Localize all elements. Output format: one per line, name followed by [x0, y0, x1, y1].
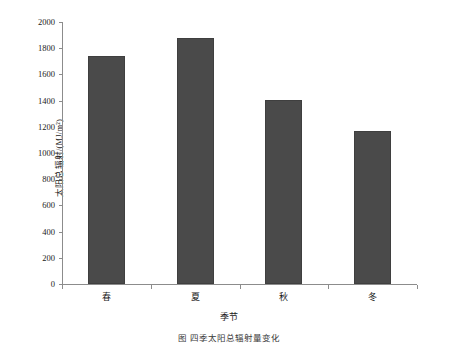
x-tick-mark — [417, 285, 418, 289]
y-tick-label: 2000 — [21, 18, 55, 27]
y-tick-mark — [59, 205, 63, 206]
y-tick-label: 1400 — [21, 97, 55, 106]
y-tick-mark — [59, 22, 63, 23]
x-tick-mark — [62, 285, 63, 289]
bar-2 — [177, 38, 214, 284]
y-tick-mark — [59, 258, 63, 259]
plot-area — [62, 22, 417, 285]
x-tick-mark — [151, 285, 152, 289]
y-tick-label: 800 — [21, 175, 55, 184]
bar-4 — [354, 131, 391, 284]
y-tick-label: 200 — [21, 254, 55, 263]
x-tick-mark — [328, 285, 329, 289]
y-tick-label: 1600 — [21, 70, 55, 79]
figure-caption: 图 四季太阳总辐射量变化 — [0, 331, 458, 343]
y-tick-label: 400 — [21, 228, 55, 237]
bar-3 — [265, 100, 302, 284]
x-axis-title: 季节 — [0, 310, 458, 323]
x-tick-label-4: 冬 — [343, 292, 403, 302]
x-tick-label-3: 秋 — [254, 292, 314, 302]
y-tick-label: 1000 — [21, 149, 55, 158]
x-tick-label-2: 夏 — [165, 292, 225, 302]
y-tick-mark — [59, 127, 63, 128]
bar-1 — [88, 56, 125, 284]
x-tick-mark — [240, 285, 241, 289]
y-tick-mark — [59, 74, 63, 75]
y-tick-label: 1200 — [21, 123, 55, 132]
y-tick-label: 600 — [21, 201, 55, 210]
y-tick-mark — [59, 179, 63, 180]
y-tick-label: 1800 — [21, 44, 55, 53]
y-tick-mark — [59, 48, 63, 49]
y-tick-mark — [59, 101, 63, 102]
y-tick-mark — [59, 153, 63, 154]
y-tick-label: 0 — [21, 280, 55, 289]
y-tick-mark — [59, 232, 63, 233]
y-axis-tick-labels: 2000180016001400120010008006004002000 — [21, 0, 55, 342]
x-tick-label-1: 春 — [76, 292, 136, 302]
